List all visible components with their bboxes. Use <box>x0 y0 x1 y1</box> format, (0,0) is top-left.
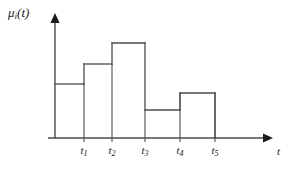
tick-label-t1-subscript: 1 <box>84 149 88 158</box>
x-axis-arrowhead <box>263 133 273 142</box>
interval-dividers <box>84 64 215 142</box>
tick-label-t2: t2 <box>108 145 115 158</box>
tick-label-t5: t5 <box>211 145 218 158</box>
tick-label-t2-subscript: 2 <box>112 149 116 158</box>
tick-label-t3-subscript: 3 <box>145 149 149 158</box>
y-axis-label: μi(t) <box>8 6 29 21</box>
y-axis-arrowhead <box>50 13 59 23</box>
tick-label-t3: t3 <box>141 145 148 158</box>
tick-label-t1: t1 <box>80 145 87 158</box>
step-function-figure: μi(t) t t1 t2 t3 t4 t5 <box>0 0 290 175</box>
tick-label-t4: t4 <box>176 145 183 158</box>
tick-label-t5-subscript: 5 <box>215 149 219 158</box>
y-axis-label-tail: (t) <box>17 5 29 20</box>
x-axis <box>48 133 273 142</box>
x-axis-label: t <box>277 146 280 157</box>
tick-label-t4-subscript: 4 <box>180 149 184 158</box>
y-axis <box>50 13 59 138</box>
step-curve <box>55 43 215 138</box>
